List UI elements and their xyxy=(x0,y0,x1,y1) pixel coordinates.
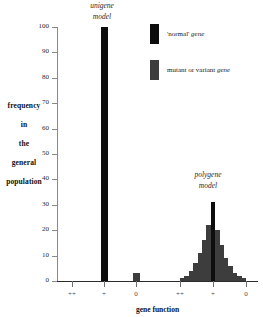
legend-swatch-normal-icon xyxy=(150,24,159,44)
legend-item-variant-gene: mutant or variant gene xyxy=(150,60,230,80)
y-axis-tick: 20 xyxy=(0,230,57,231)
legend-label-variant: mutant or variant gene xyxy=(167,66,230,74)
y-axis-tick-label: 0 xyxy=(46,275,50,286)
unigene-caption: unigene model xyxy=(62,1,142,22)
legend: 'normal' gene mutant or variant gene xyxy=(150,24,230,96)
y-axis-title-line: population xyxy=(0,172,48,191)
legend-swatch-variant-icon xyxy=(150,60,159,80)
y-axis-tick-label: 70 xyxy=(42,97,49,108)
x-axis-tick-label: + xyxy=(102,290,106,298)
y-axis-tick: 80 xyxy=(0,78,57,79)
y-axis-tick-label: 90 xyxy=(42,46,49,57)
y-axis-tick: 50 xyxy=(0,154,57,155)
x-axis-tick-mark xyxy=(180,281,181,287)
x-axis-line xyxy=(57,281,258,282)
x-axis-tick-mark xyxy=(246,281,247,287)
bar-unigene-normal xyxy=(101,27,108,281)
y-axis-tick-label: 60 xyxy=(42,123,49,134)
y-axis-tick: 40 xyxy=(0,179,57,180)
x-axis-tick-label: ++ xyxy=(176,290,184,298)
x-axis-tick-label: 0 xyxy=(244,290,248,298)
y-axis-tick-label: 20 xyxy=(42,224,49,235)
chart-figure: frequency in the general population 0102… xyxy=(0,0,263,317)
x-axis-title: gene function xyxy=(57,305,258,314)
y-axis-tick-label: 80 xyxy=(42,72,49,83)
legend-label-normal: 'normal' gene xyxy=(167,30,204,38)
y-axis-tick: 70 xyxy=(0,103,57,104)
y-axis-tick: 100 xyxy=(0,27,57,28)
y-axis-tick: 10 xyxy=(0,256,57,257)
y-axis-tick-label: 10 xyxy=(42,250,49,261)
y-axis-tick: 60 xyxy=(0,129,57,130)
x-axis-tick-label: 0 xyxy=(134,290,138,298)
y-axis-title: frequency in the general population xyxy=(0,96,48,191)
y-axis-title-line: frequency xyxy=(0,96,48,115)
y-axis-tick-label: 30 xyxy=(42,199,49,210)
y-axis-tick: 0 xyxy=(0,281,57,282)
x-axis-tick-label: + xyxy=(211,290,215,298)
legend-item-normal-gene: 'normal' gene xyxy=(150,24,230,44)
x-axis-tick-label: ++ xyxy=(68,290,76,298)
x-axis-tick-mark xyxy=(213,281,214,287)
legend-label-normal-pre: 'normal' xyxy=(167,30,191,38)
y-axis-title-line: the xyxy=(0,134,48,153)
legend-label-variant-pre: mutant or variant xyxy=(167,66,217,74)
x-axis-tick-mark xyxy=(104,281,105,287)
y-axis-tick-label: 40 xyxy=(42,173,49,184)
y-axis-tick: 30 xyxy=(0,205,57,206)
unigene-caption-line1: unigene xyxy=(62,1,142,12)
unigene-caption-line2: model xyxy=(62,12,142,23)
bar-unigene-variant xyxy=(133,273,140,281)
x-axis-tick-mark xyxy=(136,281,137,287)
y-axis-tick-label: 50 xyxy=(42,148,49,159)
x-axis-tick-mark xyxy=(72,281,73,287)
y-axis-tick: 90 xyxy=(0,52,57,53)
y-axis-title-line: in xyxy=(0,115,48,134)
legend-label-normal-em: gene xyxy=(191,30,204,38)
legend-label-variant-em: gene xyxy=(217,66,230,74)
y-axis-tick-label: 100 xyxy=(39,21,50,32)
y-axis-tick-mark xyxy=(52,281,57,282)
y-axis-title-line: general xyxy=(0,153,48,172)
